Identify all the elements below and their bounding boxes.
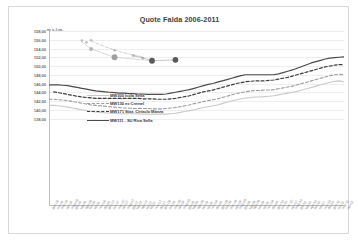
- y-axis-tick-label: 154,00: [34, 46, 46, 51]
- legend-item[interactable]: MW171 Staz. Ciriaclo Manza: [87, 108, 195, 116]
- y-axis-tick-label: 140,00: [34, 107, 46, 112]
- annotation-marker: [85, 41, 88, 44]
- chart-legend: MW300 Isola SellaMW130 ex CremelMW171 St…: [87, 91, 195, 125]
- annotation-marker: [112, 54, 118, 60]
- legend-line-swatch-icon: [87, 100, 109, 107]
- annotation-marker: [113, 49, 116, 52]
- y-axis-tick-label: 142,00: [34, 99, 46, 104]
- y-axis-tick-label: 144,00: [34, 90, 46, 95]
- y-axis-tick-label: 152,00: [34, 55, 46, 60]
- legend-item-label: MW300 Isola Sella: [110, 93, 144, 98]
- legend-line-swatch-icon: [87, 117, 109, 124]
- legend-line-swatch-icon: [87, 108, 109, 115]
- y-axis-tick-label: 138,00: [34, 116, 46, 121]
- legend-item-label: MW130 ex Cremel: [110, 101, 144, 106]
- annotation-marker: [141, 57, 144, 60]
- legend-item[interactable]: MW111 - SU Riva Sella: [87, 116, 195, 124]
- legend-item-label: MW171 Staz. Ciriaclo Manza: [110, 109, 163, 114]
- legend-item[interactable]: MW300 Isola Sella: [87, 91, 195, 99]
- annotation-marker: [173, 57, 179, 63]
- annotation-marker: [90, 39, 93, 42]
- annotation-marker: [132, 54, 135, 57]
- legend-item[interactable]: MW130 ex Cremel: [87, 99, 195, 107]
- chart-title: Quote Falda 2006-2011: [9, 15, 350, 24]
- legend-item-label: MW111 - SU Riva Sella: [110, 118, 152, 123]
- series-line: [49, 57, 344, 95]
- y-axis-tick-label: 150,00: [34, 64, 46, 69]
- legend-line-swatch-icon: [87, 92, 109, 99]
- y-axis-tick-label: 158,00: [34, 29, 46, 34]
- y-axis-tick-label: 148,00: [34, 72, 46, 77]
- annotation-marker: [149, 58, 155, 64]
- y-axis-tick-label: 146,00: [34, 81, 46, 86]
- y-axis-tick-label: 156,00: [34, 37, 46, 42]
- annotation-marker: [89, 47, 93, 51]
- annotation-line: [91, 41, 143, 57]
- chart-frame: Quote Falda 2006-2011 m s.l.m. 158,00156…: [8, 6, 349, 234]
- x-axis-tick-labels: gen-06feb-06mar-06apr-06mag-06giu-06lug-…: [49, 208, 344, 241]
- annotation-marker: [80, 39, 83, 42]
